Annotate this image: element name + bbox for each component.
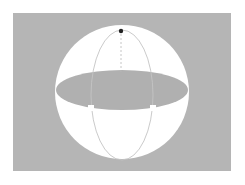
sphere-diagram [0,0,245,185]
equatorial-plane [56,70,188,110]
north-pole-point [119,29,123,33]
right-angle-marker [88,105,94,111]
right-angle-marker [150,105,156,111]
